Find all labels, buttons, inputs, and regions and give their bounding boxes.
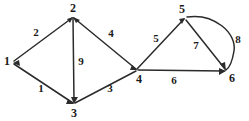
vertex-label-6: 6 — [229, 72, 235, 84]
vertex-label-5: 5 — [179, 3, 185, 15]
edge-4-5 — [137, 19, 184, 69]
edge-weight-1-3: 1 — [38, 83, 44, 94]
edge-1-2 — [14, 18, 72, 61]
edge-weight-4-5: 5 — [153, 33, 159, 44]
arrowhead-to-2-from-1 — [67, 17, 73, 23]
vertex-label-2: 2 — [70, 2, 76, 14]
edge-3-4 — [75, 71, 136, 103]
edge-weight-1-2: 2 — [33, 27, 39, 38]
graph-canvas — [0, 0, 249, 121]
edge-weight-3-4: 3 — [107, 83, 113, 94]
edge-weight-2-3: 9 — [78, 56, 84, 67]
edge-weight-5-6-chord: 7 — [193, 40, 199, 51]
edge-weight-2-4: 4 — [108, 28, 114, 39]
vertex-label-1: 1 — [4, 55, 10, 67]
edge-weight-4-6: 6 — [171, 75, 177, 86]
vertex-label-3: 3 — [71, 107, 77, 119]
edge-4-6 — [138, 70, 224, 71]
graph-figure: 1 2 3 4 5 6 2 1 9 4 3 5 6 7 8 — [0, 0, 249, 121]
edge-5-6 — [186, 20, 225, 69]
edge-weight-5-6-arc: 8 — [235, 34, 241, 45]
vertex-label-4: 4 — [136, 73, 142, 85]
edge-2-3 — [73, 18, 74, 102]
